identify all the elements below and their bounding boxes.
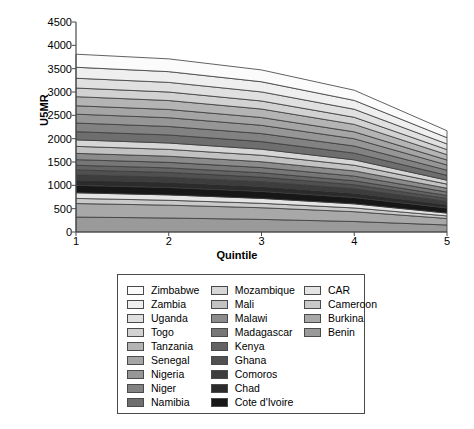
legend-swatch [127,286,144,295]
legend-item[interactable]: Mozambique [211,283,304,297]
legend-swatch [304,314,321,323]
legend-swatch [211,314,228,323]
legend-swatch [211,398,228,407]
legend-swatch [127,398,144,407]
legend-label: Namibia [151,397,190,408]
legend-label: Togo [151,327,174,338]
legend-label: Mali [235,299,254,310]
legend-item[interactable]: Zimbabwe [127,283,211,297]
legend-column: CARCameroonBurkinaBenin [304,283,364,413]
legend-label: Tanzania [151,341,193,352]
legend-item[interactable]: Uganda [127,311,211,325]
legend-item[interactable]: Cameroon [304,297,364,311]
legend-swatch [127,300,144,309]
legend-item[interactable]: Zambia [127,297,211,311]
legend-item[interactable]: Senegal [127,353,211,367]
legend-item[interactable]: Ghana [211,353,304,367]
legend-swatch [211,342,228,351]
plot-area-wrapper: U5MR 45004000350030002500200015001000500… [0,0,474,268]
legend-item[interactable]: Togo [127,325,211,339]
legend-item[interactable]: Nigeria [127,367,211,381]
x-tick-label: 3 [250,235,274,247]
legend-item[interactable]: Comoros [211,367,304,381]
legend-columns: ZimbabweZambiaUgandaTogoTanzaniaSenegalN… [118,275,364,413]
legend-swatch [127,328,144,337]
x-tick-label: 4 [342,235,366,247]
legend-swatch [304,300,321,309]
legend-label: Nigeria [151,369,184,380]
legend-item[interactable]: Malawi [211,311,304,325]
legend-swatch [127,384,144,393]
figure-root: U5MR 45004000350030002500200015001000500… [0,0,474,429]
legend-label: Benin [328,327,355,338]
legend-label: Uganda [151,313,188,324]
legend-item[interactable]: Burkina [304,311,364,325]
legend-label: Niger [151,383,176,394]
legend-item[interactable]: Madagascar [211,325,304,339]
legend-label: Zimbabwe [151,285,199,296]
legend-item[interactable]: Kenya [211,339,304,353]
legend-label: Burkina [328,313,364,324]
legend-item[interactable]: Chad [211,381,304,395]
legend-swatch [304,328,321,337]
legend-item[interactable]: Cote d'Ivoire [211,395,304,409]
stacked-area-chart [0,0,474,268]
chart-legend: ZimbabweZambiaUgandaTogoTanzaniaSenegalN… [117,274,365,414]
legend-swatch [211,370,228,379]
legend-swatch [127,356,144,365]
legend-swatch [211,356,228,365]
legend-swatch [211,328,228,337]
legend-swatch [211,300,228,309]
legend-swatch [211,286,228,295]
legend-label: Comoros [235,369,278,380]
legend-item[interactable]: CAR [304,283,364,297]
legend-label: CAR [328,285,350,296]
x-tick-label: 5 [435,235,459,247]
legend-item[interactable]: Niger [127,381,211,395]
legend-label: Cameroon [328,299,377,310]
legend-swatch [127,342,144,351]
legend-swatch [127,314,144,323]
legend-column: ZimbabweZambiaUgandaTogoTanzaniaSenegalN… [127,283,211,413]
legend-swatch [304,286,321,295]
legend-label: Cote d'Ivoire [235,397,294,408]
legend-label: Madagascar [235,327,293,338]
legend-label: Malawi [235,313,268,324]
legend-swatch [211,384,228,393]
legend-label: Chad [235,383,260,394]
legend-label: Mozambique [235,285,295,296]
legend-item[interactable]: Mali [211,297,304,311]
legend-column: MozambiqueMaliMalawiMadagascarKenyaGhana… [211,283,304,413]
legend-label: Zambia [151,299,186,310]
x-tick-label: 2 [157,235,181,247]
legend-item[interactable]: Tanzania [127,339,211,353]
legend-item[interactable]: Benin [304,325,364,339]
x-tick-label: 1 [64,235,88,247]
legend-item[interactable]: Namibia [127,395,211,409]
legend-label: Kenya [235,341,265,352]
legend-label: Senegal [151,355,190,366]
legend-label: Ghana [235,355,267,366]
legend-swatch [127,370,144,379]
x-axis-label: Quintile [0,249,474,261]
